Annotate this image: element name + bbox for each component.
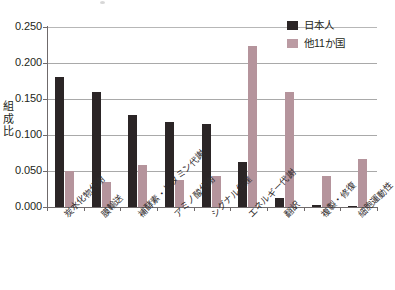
bar-jp [275, 198, 284, 207]
x-tick-mark [230, 207, 231, 211]
x-tick-mark [47, 207, 48, 211]
x-tick-mark [304, 207, 305, 211]
y-tick-label: 0.250 [0, 21, 42, 32]
legend-label-other: 他11か国 [304, 38, 345, 49]
y-tick-label: 0.150 [0, 93, 42, 104]
legend-label-jp: 日本人 [304, 20, 334, 31]
bar-other [285, 92, 294, 207]
x-tick-mark [84, 207, 85, 211]
bar-jp [128, 115, 137, 207]
legend-swatch-icon-other [287, 39, 298, 48]
y-tick-label: 0.000 [0, 201, 42, 212]
y-tick-label: 0.200 [0, 57, 42, 68]
x-tick-mark [120, 207, 121, 211]
x-tick-mark [267, 207, 268, 211]
y-tick-label: 0.050 [0, 165, 42, 176]
x-tick-mark [157, 207, 158, 211]
scan-artifact [100, 1, 105, 4]
bar-other [358, 159, 367, 207]
legend: 日本人 他11か国 [287, 18, 383, 54]
x-tick-mark [340, 207, 341, 211]
x-tick-mark [377, 207, 378, 211]
legend-swatch-icon-jp [287, 21, 298, 30]
bar-jp [312, 205, 321, 207]
legend-item-jp: 日本人 [287, 18, 383, 33]
y-tick-label: 0.100 [0, 129, 42, 140]
bar-jp [348, 206, 357, 207]
bar-jp [55, 77, 64, 207]
x-tick-mark [194, 207, 195, 211]
legend-item-other: 他11か国 [287, 36, 383, 51]
